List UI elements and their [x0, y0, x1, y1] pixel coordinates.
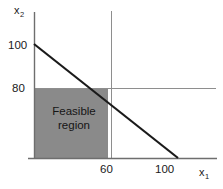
- feasible-region-label: Feasible region: [42, 105, 106, 132]
- x-tick-label-100: 100: [155, 163, 174, 175]
- x-tick-label-60: 60: [100, 163, 113, 175]
- y-tick-label-100: 100: [8, 39, 27, 51]
- x-axis-label: x1: [199, 166, 209, 178]
- y-axis-label: x2: [14, 4, 24, 16]
- x-axis-label-subscript: 1: [205, 172, 209, 181]
- y-tick-label-80: 80: [12, 82, 25, 94]
- y-axis-label-subscript: 2: [20, 10, 24, 19]
- plot-canvas: [0, 0, 223, 189]
- feasible-region-figure: x2 x1 100 80 60 100 Feasible region: [0, 0, 223, 189]
